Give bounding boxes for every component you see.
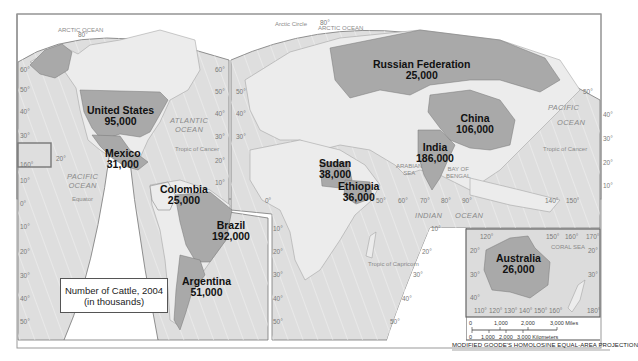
lat-label: 40° (215, 110, 225, 117)
lat-label: 30° (413, 271, 423, 278)
lon-label: 110° (474, 307, 487, 314)
equator-label: Equator (72, 196, 93, 202)
label-brazil: Brazil192,000 (212, 220, 250, 242)
lon-label: 140° (519, 307, 532, 314)
lat-label: 30° (603, 135, 613, 142)
lat-label: 40° (603, 111, 613, 118)
pacific-ocean-label-east-1: PACIFIC (548, 103, 579, 112)
coral-sea-label: CORAL SEA (551, 244, 585, 250)
lat-label: 40° (402, 295, 412, 302)
lon-label: 150° (566, 197, 579, 204)
lat-label: 40° (20, 295, 30, 302)
lat-label: 40° (20, 108, 30, 115)
lon-label: 140° (545, 197, 558, 204)
label-colombia: Colombia25,000 (160, 184, 208, 206)
legend-subtitle: (in thousands) (61, 296, 167, 307)
indian-ocean-label-2: OCEAN (455, 211, 483, 220)
lat-label: 0° (265, 197, 271, 204)
lat-label: 20° (215, 157, 225, 164)
lon-label: 160° (549, 307, 562, 314)
lon-label: 180° (587, 307, 600, 314)
label-united-states: United States95,000 (87, 105, 154, 127)
lat-label: 40° (273, 295, 283, 302)
scale-km-2000: 2,000 (499, 334, 513, 340)
lon-label: 70° (420, 197, 430, 204)
lat-label: 30° (273, 271, 283, 278)
lon-label: 170° (586, 233, 599, 240)
lat-label: 10° (431, 225, 441, 232)
arctic-circle-label: Arctic Circle (275, 21, 307, 27)
lat-label: 10° (273, 225, 283, 232)
lat-label: 50° (236, 88, 246, 95)
lat-label: 10° (20, 223, 30, 230)
lat-label: 10° (20, 177, 30, 184)
arabian-sea-label: ARABIANSEA (396, 163, 422, 177)
lon-label: 160° (20, 161, 33, 168)
lon-label: 160° (565, 233, 578, 240)
lat-label: 30° (470, 271, 480, 278)
lat-label: 30° (20, 272, 30, 279)
scale-km-1000: 1,000 (481, 334, 495, 340)
label-argentina: Argentina51,000 (182, 276, 231, 298)
lat-label: 20° (603, 159, 613, 166)
pacific-ocean-label-east-2: OCEAN (557, 118, 585, 127)
label-australia: Australia26,000 (496, 253, 541, 275)
lat-label: 20° (470, 247, 480, 254)
lat-label: 80° (78, 31, 88, 38)
lat-label: 20° (20, 248, 30, 255)
tropic-of-capricorn: Tropic of Capricorn (368, 261, 419, 267)
lat-label: 50° (583, 88, 593, 95)
label-russian-federation: Russian Federation25,000 (373, 59, 470, 81)
lat-label: 60° (215, 66, 225, 73)
lat-label: 30° (588, 271, 598, 278)
lat-label: 50° (20, 86, 30, 93)
scale-miles-2000: 2,000 (521, 320, 535, 326)
lat-label: 30° (236, 133, 246, 140)
label-ethiopia: Ethiopia36,000 (338, 181, 379, 203)
label-china: China106,000 (456, 113, 494, 135)
lat-label: 20° (422, 248, 432, 255)
lat-label: 50° (215, 88, 225, 95)
tropic-of-cancer-west: Tropic of Cancer (175, 146, 219, 152)
lat-label: 80° (320, 19, 330, 26)
pacific-ocean-label-west: PACIFICOCEAN (67, 172, 98, 190)
lon-label: 60° (398, 197, 408, 204)
lat-label: 10° (603, 182, 613, 189)
lon-label: 120° (489, 307, 502, 314)
lat-label: 20° (273, 248, 283, 255)
lon-label: 90° (462, 197, 472, 204)
label-mexico: Mexico31,000 (105, 148, 141, 170)
lat-label: 60° (20, 66, 30, 73)
map-legend-title: Number of Cattle, 2004 (in thousands) (60, 278, 168, 313)
lon-label: 130° (504, 307, 517, 314)
lat-label: 10° (215, 179, 225, 186)
scale-miles-3000: 3,000 Miles (550, 320, 578, 326)
lat-label: 50° (273, 318, 283, 325)
label-sudan: Sudan38,000 (319, 158, 351, 180)
lat-label: 0° (20, 200, 26, 207)
scale-km-3000: 3,000 Kilometers (517, 334, 558, 340)
projection-caption: MODIFIED GOODE'S HOMOLOSINE EQUAL-AREA P… (452, 342, 638, 348)
scale-miles-0: 0 (469, 320, 472, 326)
tropic-of-cancer-east: Tropic of Cancer (543, 146, 587, 152)
lon-label: 80° (441, 197, 451, 204)
scale-miles-1000: 1,000 (494, 320, 508, 326)
lon-label: 150° (546, 233, 559, 240)
lat-label: 40° (470, 294, 480, 301)
lon-label: 50° (376, 197, 386, 204)
lat-label: 20° (588, 247, 598, 254)
legend-title: Number of Cattle, 2004 (61, 285, 167, 296)
atlantic-ocean-label: ATLANTICOCEAN (170, 116, 208, 134)
lat-label: 30° (20, 132, 30, 139)
bay-of-bengal-label: BAY OFBENGAL (446, 166, 470, 180)
lat-label: 50° (390, 318, 400, 325)
lon-label: 120° (480, 233, 493, 240)
lat-label: 50° (20, 318, 30, 325)
indian-ocean-label: INDIAN (415, 211, 442, 220)
scale-km-0: 0 (469, 334, 472, 340)
lon-label: 150° (534, 307, 547, 314)
label-india: India186,000 (416, 142, 454, 164)
lat-label: 20° (56, 155, 66, 162)
lat-label: 40° (236, 110, 246, 117)
lat-label: 30° (215, 133, 225, 140)
